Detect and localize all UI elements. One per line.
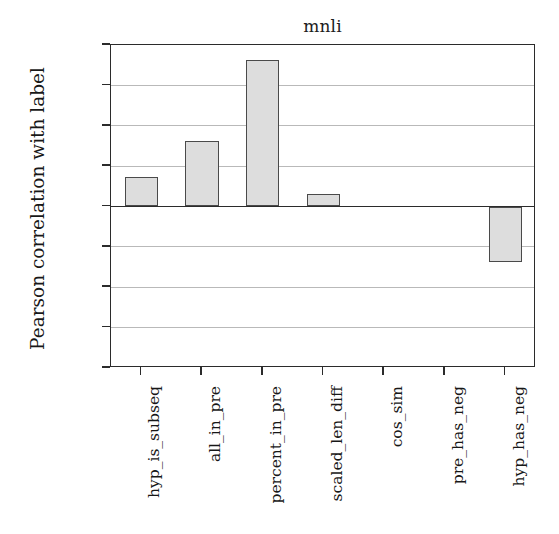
x-tick-mark [504, 367, 506, 375]
y-tick-mark [102, 366, 110, 368]
x-tick-label-hyp_has_neg: hyp_has_neg [512, 386, 528, 486]
y-tick-mark [102, 84, 110, 86]
plot-area [110, 44, 535, 367]
x-tick-label-pre_has_neg: pre_has_neg [451, 386, 467, 484]
bar-all_in_pre [185, 141, 218, 207]
x-tick-label-cos_sim: cos_sim [390, 386, 406, 447]
x-tick-mark [261, 367, 263, 375]
y-tick-mark [102, 205, 110, 207]
y-tick-mark [102, 124, 110, 126]
x-tick-mark [200, 367, 202, 375]
bar-series [111, 45, 534, 366]
bar-hyp_is_subseq [125, 177, 158, 206]
x-tick-mark [443, 367, 445, 375]
bar-percent_in_pre [246, 60, 279, 206]
chart-title: mnli [110, 16, 535, 36]
x-tick-label-all_in_pre: all_in_pre [208, 386, 224, 462]
chart-figure: mnli Pearson correlation with label 0.40… [0, 0, 559, 534]
y-tick-mark [102, 43, 110, 45]
y-tick-mark [102, 285, 110, 287]
x-tick-mark [322, 367, 324, 375]
y-axis-title: Pearson correlation with label [27, 39, 48, 379]
bar-scaled_len_diff [307, 194, 340, 207]
x-tick-mark [140, 367, 142, 375]
x-tick-label-percent_in_pre: percent_in_pre [269, 386, 285, 504]
x-tick-mark [382, 367, 384, 375]
y-tick-mark [102, 245, 110, 247]
x-tick-label-scaled_len_diff: scaled_len_diff [330, 386, 346, 501]
y-tick-mark [102, 164, 110, 166]
x-tick-label-hyp_is_subseq: hyp_is_subseq [147, 386, 163, 498]
y-tick-mark [102, 326, 110, 328]
bar-hyp_has_neg [489, 207, 522, 262]
